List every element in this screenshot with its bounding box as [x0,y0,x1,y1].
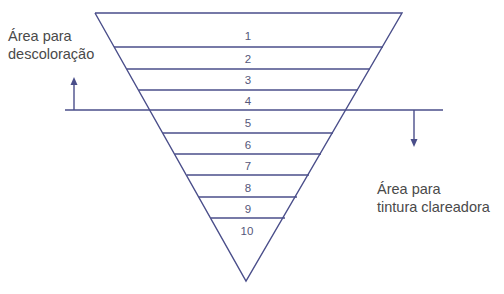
level-number-7: 7 [245,160,251,172]
lightening-dye-area-label: Área para tintura clareadora [377,180,490,216]
level-number-9: 9 [245,203,251,215]
lightening-dye-area-label-line2: tintura clareadora [377,198,490,216]
level-number-6: 6 [245,139,251,151]
level-number-2: 2 [245,53,251,65]
lightening-dye-area-label-line1: Área para [377,180,490,198]
level-number-5: 5 [245,117,251,129]
level-number-3: 3 [245,74,251,86]
level-number-1: 1 [245,30,251,42]
bleaching-area-label-line1: Área para [8,27,94,45]
level-number-8: 8 [245,182,251,194]
level-number-4: 4 [245,95,252,107]
down-arrow-icon [411,139,418,147]
bleaching-area-label-line2: descoloração [8,45,94,63]
bleaching-area-label: Área para descoloração [8,27,94,63]
level-number-10: 10 [241,225,254,237]
up-arrow-icon [71,77,78,85]
